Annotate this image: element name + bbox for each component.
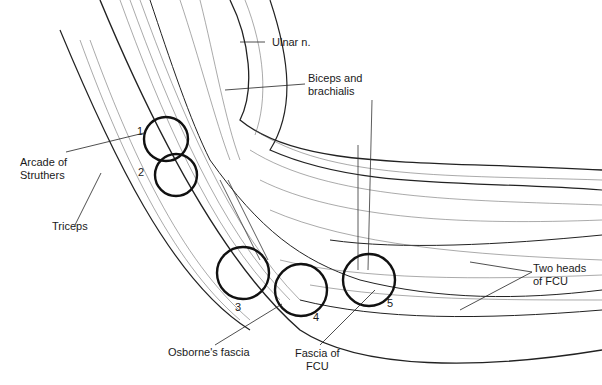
label-two-heads-of-fcu: Two heads of FCU bbox=[533, 262, 586, 288]
site-number-1: 1 bbox=[137, 125, 143, 137]
label-ulnar-nerve: Ulnar n. bbox=[272, 36, 311, 49]
label-line: Fascia of bbox=[295, 347, 340, 360]
label-line: Biceps and bbox=[308, 72, 362, 85]
label-line: of FCU bbox=[533, 275, 586, 288]
label-triceps: Triceps bbox=[52, 220, 88, 233]
site-4-circle bbox=[275, 264, 327, 316]
site-3-circle bbox=[217, 247, 269, 299]
label-biceps-brachialis: Biceps and brachialis bbox=[308, 72, 362, 98]
site-number-2: 2 bbox=[138, 166, 144, 178]
label-line: Struthers bbox=[20, 169, 67, 182]
compression-site-circles bbox=[144, 117, 395, 316]
label-osbornes-fascia: Osborne's fascia bbox=[168, 346, 250, 359]
site-number-4: 4 bbox=[313, 311, 319, 323]
elbow-illustration bbox=[0, 0, 602, 385]
label-line: FCU bbox=[295, 360, 340, 373]
label-line: Arcade of bbox=[20, 156, 67, 169]
anatomy-diagram: Ulnar n. Biceps and brachialis Arcade of… bbox=[0, 0, 602, 385]
site-number-5: 5 bbox=[387, 297, 393, 309]
label-line: brachialis bbox=[308, 85, 362, 98]
label-arcade-of-struthers: Arcade of Struthers bbox=[20, 156, 67, 182]
label-fascia-of-fcu: Fascia of FCU bbox=[295, 347, 340, 373]
label-line: Two heads bbox=[533, 262, 586, 275]
site-number-3: 3 bbox=[235, 301, 241, 313]
